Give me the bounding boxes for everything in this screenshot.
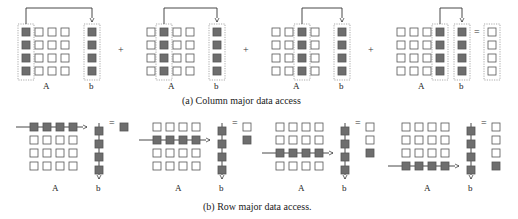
matrix-cell (179, 162, 187, 170)
matrix-label: A (418, 81, 425, 91)
matrix-cell (147, 54, 155, 62)
vector-cell (458, 41, 466, 49)
matrix-cell (302, 136, 310, 144)
matrix-cell (315, 123, 323, 131)
matrix-cell (315, 136, 323, 144)
matrix-label: A (175, 183, 182, 193)
vector-cell (467, 166, 475, 174)
vector-label: b (459, 81, 464, 91)
vector-cell (458, 67, 466, 75)
access-arrow (440, 8, 462, 24)
matrix-cell (276, 123, 284, 131)
matrix-cell (147, 28, 155, 36)
matrix-cell (43, 136, 51, 144)
matrix-cell (35, 54, 43, 62)
equals-operator: = (355, 117, 361, 128)
matrix-cell (69, 123, 77, 131)
matrix-cell (61, 28, 69, 36)
vector-cell (88, 54, 96, 62)
matrix-cell (272, 67, 280, 75)
result-cell (243, 136, 251, 144)
vector-cell (218, 127, 226, 135)
matrix-cell (276, 162, 284, 170)
result-cell (488, 67, 496, 75)
vector-cell (341, 166, 349, 174)
matrix-cell (402, 123, 410, 131)
result-cell (366, 149, 374, 157)
vector-cell (338, 41, 346, 49)
matrix-cell (166, 162, 174, 170)
access-arrow (164, 8, 217, 24)
matrix-label: A (424, 183, 431, 193)
matrix-cell (298, 28, 306, 36)
matrix-cell (276, 136, 284, 144)
matrix-cell (402, 136, 410, 144)
matrix-cell (69, 136, 77, 144)
vector-cell (218, 166, 226, 174)
matrix-cell (61, 67, 69, 75)
matrix-cell (436, 54, 444, 62)
access-arrow (26, 8, 92, 24)
vector-cell (458, 54, 466, 62)
matrix-cell (298, 41, 306, 49)
matrix-cell (436, 41, 444, 49)
vector-cell (213, 28, 221, 36)
vector-cell (213, 67, 221, 75)
matrix-cell (35, 41, 43, 49)
matrix-cell (272, 28, 280, 36)
vector-label: b (339, 81, 344, 91)
vector-cell (338, 54, 346, 62)
matrix-cell (179, 149, 187, 157)
vector-label: b (219, 183, 224, 193)
matrix-cell (173, 28, 181, 36)
vector-cell (467, 153, 475, 161)
column-major-panel (18, 8, 100, 80)
result-cell (492, 123, 500, 131)
matrix-label: A (293, 81, 300, 91)
matrix-cell (48, 54, 56, 62)
matrix-cell (43, 149, 51, 157)
matrix-cell (173, 54, 181, 62)
vector-cell (88, 28, 96, 36)
vector-label: b (214, 81, 219, 91)
matrix-cell (397, 41, 405, 49)
matrix-cell (192, 123, 200, 131)
matrix-cell (315, 149, 323, 157)
matrix-cell (192, 162, 200, 170)
matrix-cell (428, 162, 436, 170)
matrix-cell (22, 54, 30, 62)
matrix-cell (22, 41, 30, 49)
matrix-cell (61, 41, 69, 49)
matrix-cell (410, 54, 418, 62)
matrix-cell (35, 67, 43, 75)
vector-label: b (468, 183, 473, 193)
matrix-cell (289, 162, 297, 170)
matrix-cell (192, 136, 200, 144)
matrix-cell (30, 136, 38, 144)
matrix-cell (22, 67, 30, 75)
matrix-cell (35, 28, 43, 36)
caption-column-major: (a) Column major data access (182, 95, 301, 106)
result-cell (488, 28, 496, 36)
matrix-cell (30, 149, 38, 157)
vector-cell (95, 153, 103, 161)
matrix-cell (160, 28, 168, 36)
matrix-cell (186, 67, 194, 75)
matrix-cell (397, 67, 405, 75)
vector-cell (213, 54, 221, 62)
result-cell (243, 123, 251, 131)
matrix-cell (402, 162, 410, 170)
matrix-cell (272, 41, 280, 49)
matrix-cell (22, 28, 30, 36)
vector-cell (341, 153, 349, 161)
matrix-cell (179, 123, 187, 131)
matrix-cell (423, 54, 431, 62)
matrix-cell (423, 41, 431, 49)
matrix-cell (415, 149, 423, 157)
matrix-cell (289, 149, 297, 157)
matrix-cell (298, 54, 306, 62)
matrix-cell (153, 149, 161, 157)
equals-operator: = (481, 117, 487, 128)
matrix-cell (272, 54, 280, 62)
result-cell (120, 123, 128, 131)
